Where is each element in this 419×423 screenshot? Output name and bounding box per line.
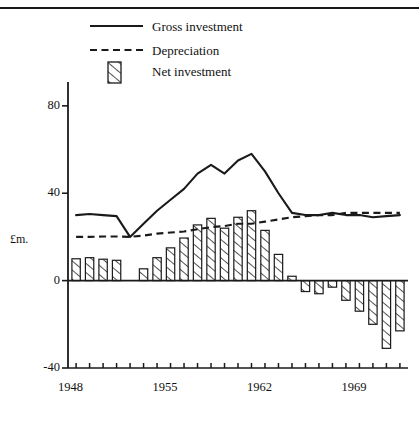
net-investment-bar xyxy=(355,281,363,312)
net-investment-bar xyxy=(261,230,269,280)
net-investment-bar xyxy=(112,260,120,280)
net-investment-bar xyxy=(220,228,228,280)
net-investment-bar xyxy=(99,259,107,280)
legend-label-depreciation: Depreciation xyxy=(152,43,219,59)
x-tick-label-1955: 1955 xyxy=(153,380,178,395)
net-investment-bar xyxy=(328,281,336,288)
net-investment-bar xyxy=(180,238,188,281)
net-investment-bar xyxy=(72,259,80,281)
legend-label-net-investment: Net investment xyxy=(152,64,231,80)
net-investment-bar xyxy=(342,281,350,301)
x-tick-label-1969: 1969 xyxy=(341,380,366,395)
net-investment-bar xyxy=(247,211,255,281)
net-investment-bar xyxy=(153,258,161,281)
net-investment-bar xyxy=(139,269,147,281)
y-tick-label-0: 0 xyxy=(18,273,60,288)
legend-hatched-swatch-icon xyxy=(108,62,121,83)
y-tick-label-40: 40 xyxy=(18,185,60,200)
net-investment-bar xyxy=(396,281,404,331)
investment-chart-figure: Gross investment Depreciation Net invest… xyxy=(0,0,419,423)
net-investment-bar xyxy=(382,281,390,349)
y-tick-label-neg40: -40 xyxy=(18,360,60,375)
net-investment-bar xyxy=(85,258,93,281)
net-investment-bar xyxy=(315,281,323,294)
y-axis-title: £m. xyxy=(10,232,28,247)
x-tick-label-1948: 1948 xyxy=(58,380,83,395)
net-investment-bar xyxy=(369,281,377,325)
legend-markers xyxy=(90,26,143,83)
net-investment-bars xyxy=(72,211,404,349)
x-tick-label-1962: 1962 xyxy=(247,380,272,395)
net-investment-bar xyxy=(166,248,174,281)
net-investment-bar xyxy=(234,217,242,280)
net-investment-bar xyxy=(274,254,282,280)
y-tick-label-80: 80 xyxy=(18,98,60,113)
legend-label-gross-investment: Gross investment xyxy=(152,19,243,35)
net-investment-bar xyxy=(193,225,201,281)
net-investment-bar xyxy=(301,281,309,292)
